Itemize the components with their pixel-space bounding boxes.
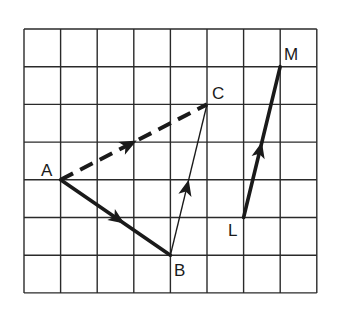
label-l: L [228, 221, 237, 240]
diagram-canvas: A B C L M [0, 0, 338, 309]
point-labels: A B C L M [41, 45, 298, 280]
arrowhead-icon [107, 209, 124, 224]
label-c: C [212, 84, 224, 103]
label-a: A [41, 161, 53, 180]
label-m: M [284, 45, 298, 64]
vector-diagram: A B C L M [0, 0, 338, 309]
label-b: B [174, 261, 185, 280]
